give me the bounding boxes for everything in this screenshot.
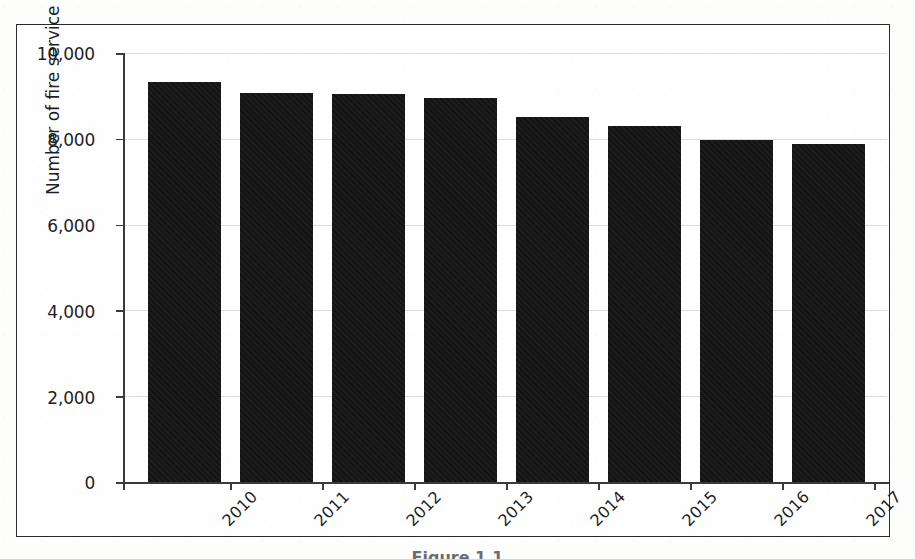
- y-tick-label-6000: 6,000: [47, 216, 95, 236]
- bar-2017[interactable]: [792, 144, 865, 482]
- y-axis-line: [123, 53, 125, 483]
- bar-2013[interactable]: [424, 98, 497, 482]
- x-tick-label-2016: 2016: [770, 487, 813, 530]
- x-tick-label-2013: 2013: [494, 487, 537, 530]
- bar-series: [123, 53, 891, 482]
- bar-2014[interactable]: [516, 117, 589, 483]
- figure-frame: Number of fire service staff 10,000 8,00…: [16, 24, 890, 537]
- bar-2015[interactable]: [608, 126, 681, 482]
- bar-2010[interactable]: [148, 82, 221, 482]
- y-tick-label-0: 0: [84, 473, 95, 493]
- x-tick-label-2010: 2010: [218, 487, 261, 530]
- x-tick-label-2015: 2015: [678, 487, 721, 530]
- plot-area: [123, 53, 891, 482]
- bar-2016[interactable]: [700, 140, 773, 482]
- y-tick-label-8000: 8,000: [47, 130, 95, 150]
- y-tick-label-10000: 10,000: [37, 44, 95, 64]
- bar-2012[interactable]: [332, 94, 405, 482]
- x-tick-label-2011: 2011: [310, 487, 353, 530]
- bar-2011[interactable]: [240, 93, 313, 482]
- y-axis-tick-labels: 10,000 8,000 6,000 4,000 2,000 0: [7, 53, 95, 482]
- figure-caption: Figure 1.1: [0, 544, 915, 559]
- x-axis-line: [123, 482, 889, 484]
- y-tick-label-4000: 4,000: [47, 302, 95, 322]
- x-tick-label-2014: 2014: [586, 487, 629, 530]
- x-axis-tick-labels: 2010 2011 2012 2013 2014 2015 2016 2017: [123, 487, 891, 547]
- x-tick-label-2012: 2012: [402, 487, 445, 530]
- y-tick-label-2000: 2,000: [47, 388, 95, 408]
